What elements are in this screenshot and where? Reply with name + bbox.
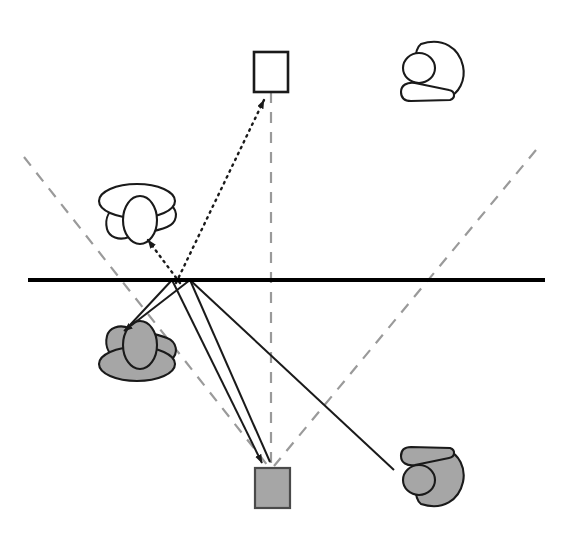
white-square-object: [254, 52, 288, 92]
mirror-reflection-figure: [0, 0, 561, 552]
ray-solid-to-gray-square-second: [190, 280, 270, 462]
ray-solid-to-gray-square: [172, 280, 262, 463]
person-head-shape: [403, 465, 435, 495]
ray-solid-to-gray-person-bottom-right: [190, 280, 394, 470]
gray-person-image-left: [99, 321, 176, 381]
gray-person-image-bottom-right: [401, 447, 464, 506]
dashed-virtual-right: [274, 150, 536, 466]
person-head-outline: [123, 196, 157, 244]
gray-square-image: [255, 468, 290, 508]
ray-solid-to-gray-person-head: [124, 280, 190, 331]
dotted-sightline-to-white-person: [148, 240, 180, 283]
white-person-observer-top-right: [401, 42, 464, 101]
diagram-canvas: [0, 0, 561, 552]
dotted-sightline-to-white-square: [176, 100, 264, 283]
person-head-outline: [403, 53, 435, 83]
white-person-observer-left: [99, 184, 176, 244]
